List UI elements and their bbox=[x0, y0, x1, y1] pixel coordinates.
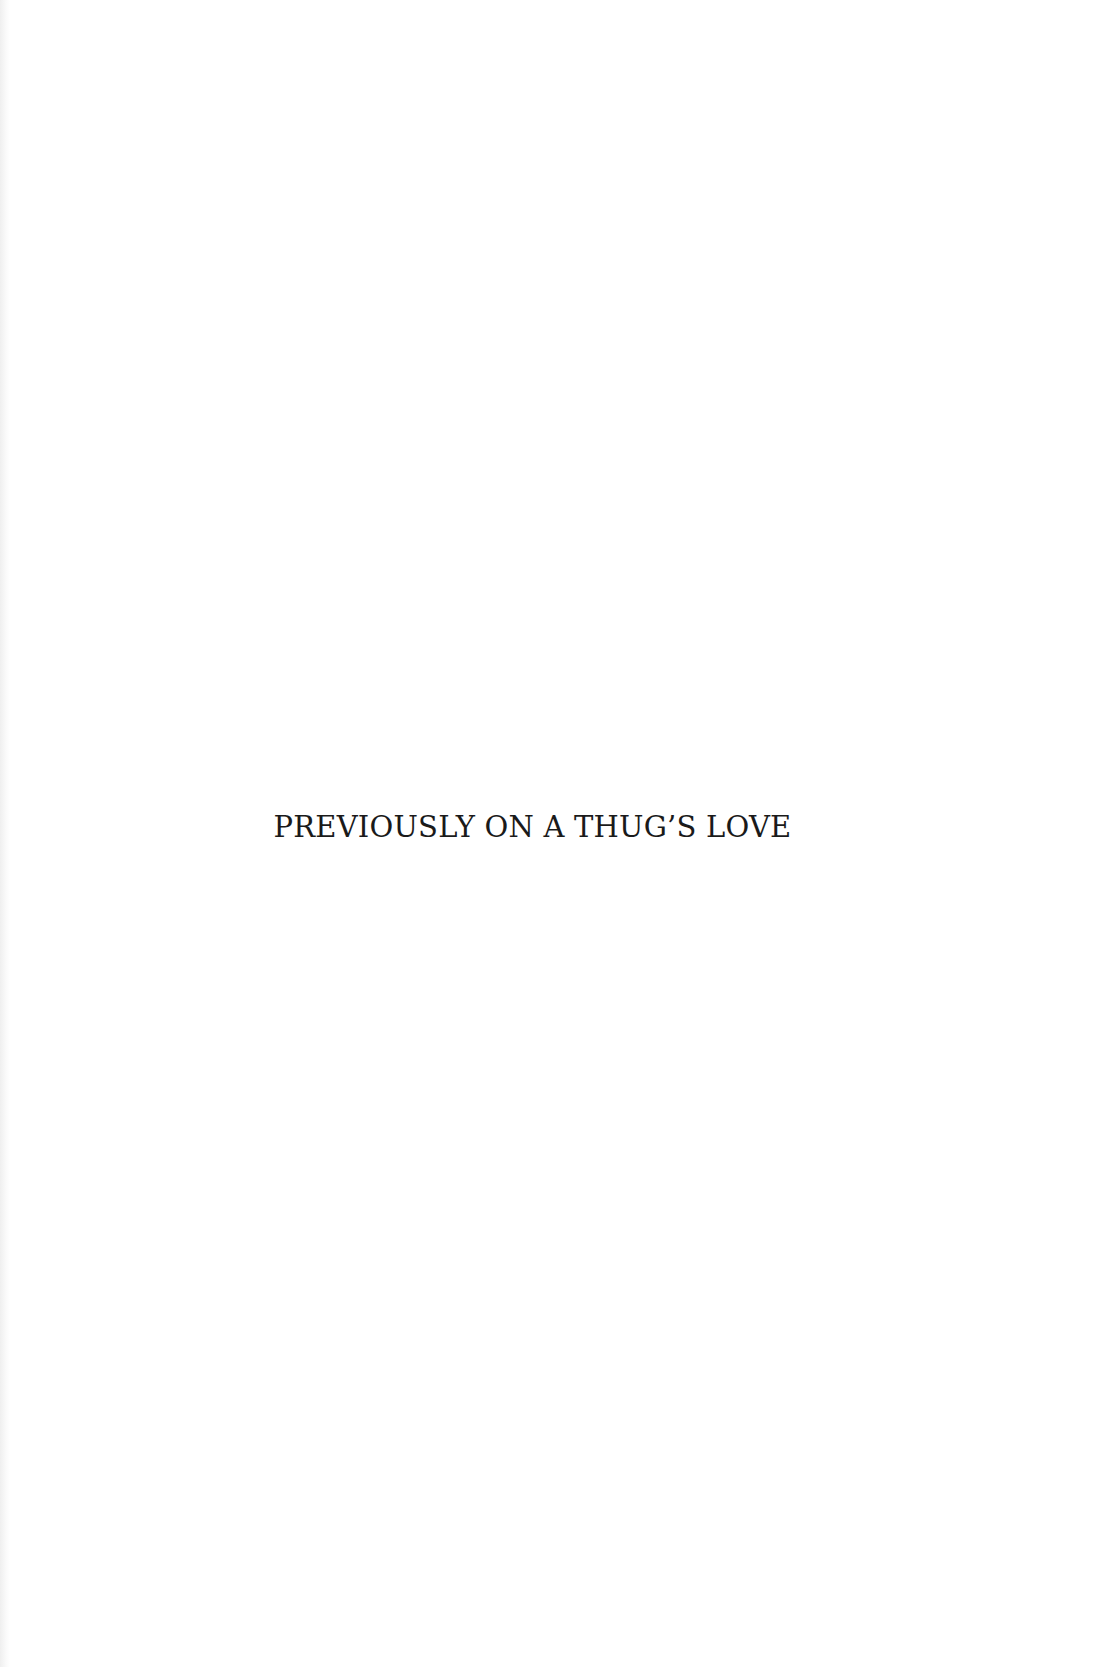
page-title: PREVIOUSLY ON A THUG’S LOVE bbox=[0, 810, 1099, 844]
